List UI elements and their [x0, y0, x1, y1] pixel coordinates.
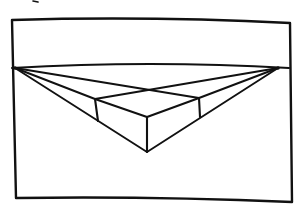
perspective-sketch	[0, 0, 303, 209]
sketch-frame	[12, 19, 292, 202]
box-right-vertical-edge	[199, 98, 200, 117]
guide-left-to-right-top	[15, 68, 199, 98]
horizon-line	[12, 64, 289, 68]
cropped-glyph-fragment	[33, 1, 38, 2]
guide-right-to-left-top	[95, 68, 278, 99]
box-left-vertical-edge	[95, 99, 98, 121]
box-top-right-front-edge	[147, 98, 199, 117]
box-top-left-front-edge	[95, 99, 147, 117]
